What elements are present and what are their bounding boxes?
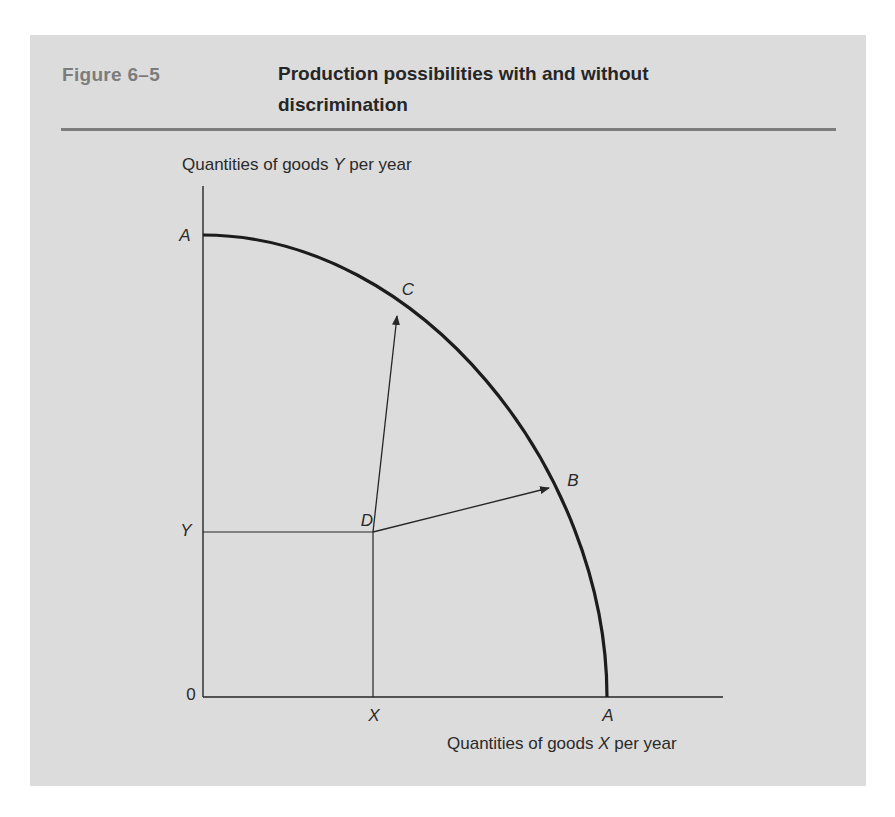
x-axis-title: Quantities of goods X per year [447,734,677,754]
y-intercept-label-a: A [179,226,190,246]
arrow-d-to-b [373,488,549,532]
y-tick-label-y: Y [180,521,191,541]
x-tick-label-x: X [368,706,379,726]
point-label-d: D [361,511,373,531]
origin-label: 0 [186,685,195,705]
y-axis-title: Quantities of goods Y per year [182,155,412,175]
point-label-c: C [402,280,414,300]
x-intercept-label-a: A [602,706,613,726]
point-label-b: B [567,471,578,491]
production-possibilities-curve [203,235,607,697]
arrow-d-to-c [373,316,397,532]
chart-plot [0,0,895,817]
